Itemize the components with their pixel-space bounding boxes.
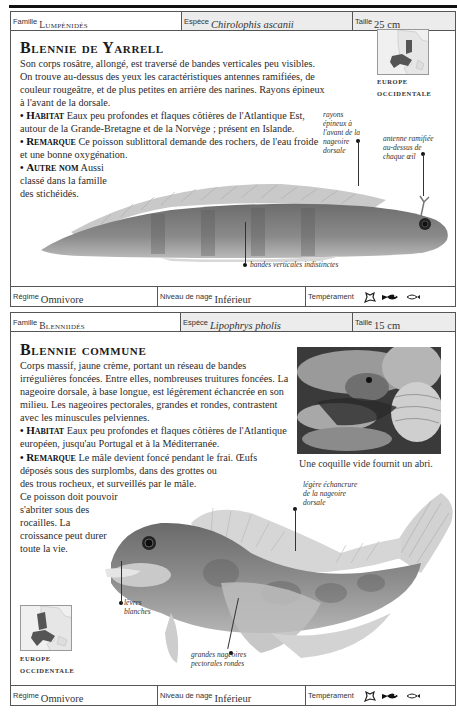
bottom-dwelling-fish-icon	[382, 292, 400, 303]
regime-field: RégimeOmnivore	[11, 686, 158, 705]
taille-field: Taille15 cm	[353, 313, 455, 331]
map-caption: EUROPE OCCIDENTALE	[377, 76, 432, 100]
section-keyword: Remarque	[26, 451, 76, 463]
espece-value: Chirolophis ascanii	[211, 19, 294, 30]
species-title: Blennie commune	[20, 341, 146, 359]
habitat-photo	[297, 347, 441, 454]
niveau-value: Inférieur	[215, 693, 252, 704]
regime-value: Omnivore	[41, 294, 84, 305]
regime-label: Régime	[13, 292, 39, 301]
species-title: Blennie de Yarrell	[20, 39, 164, 57]
taille-field: Taille25 cm	[353, 12, 455, 30]
famille-field: FamilleBlenniidés	[11, 313, 181, 331]
temperament-icons	[364, 691, 420, 702]
top-rule	[9, 5, 457, 8]
espece-field: EspèceChirolophis ascanii	[182, 12, 353, 30]
leader-line	[121, 561, 122, 603]
annotation-rayons-epineux: rayons épineux à l'avant de la nageoire …	[323, 110, 368, 155]
taille-label: Taille	[355, 17, 372, 26]
temperament-field: Tempérament	[306, 686, 455, 705]
famille-label: Famille	[13, 17, 37, 26]
famille-field: FamilleLumpénidés	[11, 12, 182, 30]
temperament-icons	[364, 292, 420, 303]
school-fish-icon	[406, 691, 420, 702]
niveau-label: Niveau de nage	[160, 292, 213, 301]
niveau-label: Niveau de nage	[160, 691, 213, 700]
peaceful-fish-icon	[364, 691, 376, 702]
distribution-map	[20, 605, 72, 651]
peaceful-fish-icon	[364, 292, 376, 303]
taille-value: 15 cm	[374, 320, 400, 331]
espece-value: Lipophrys pholis	[210, 320, 281, 331]
section-habitat: • Habitat Eaux peu profondes et flaques …	[20, 424, 292, 450]
europe-map-icon	[378, 30, 429, 75]
card-footer: RégimeOmnivore Niveau de nageInférieur T…	[11, 286, 455, 306]
europe-map-icon	[21, 606, 72, 651]
card-footer: RégimeOmnivore Niveau de nageInférieur T…	[11, 685, 455, 705]
temperament-label: Tempérament	[308, 292, 354, 301]
leader-line	[423, 154, 424, 196]
niveau-field: Niveau de nageInférieur	[158, 287, 306, 306]
section-keyword: Remarque	[26, 135, 76, 147]
fish-illustration-chirolophis	[41, 162, 453, 262]
regime-label: Régime	[13, 691, 39, 700]
niveau-field: Niveau de nageInférieur	[158, 686, 306, 705]
niveau-value: Inférieur	[215, 294, 252, 305]
map-caption: EUROPE OCCIDENTALE	[20, 653, 75, 677]
distribution-map	[377, 29, 429, 75]
espece-field: EspèceLipophrys pholis	[181, 313, 353, 331]
school-fish-icon	[406, 292, 420, 303]
annotation-bandes-verticales: bandes verticales indistinctes	[250, 260, 370, 269]
leader-line	[245, 222, 246, 264]
famille-value: Lumpénidés	[39, 20, 88, 30]
species-description: Corps massif, jaune crème, portant un ré…	[20, 359, 292, 424]
species-description: Son corps rosâtre, allongé, est traversé…	[20, 57, 325, 109]
temperament-label: Tempérament	[308, 691, 354, 700]
annotation-echancrure-dorsale: légère échancrure de la nageoire dorsale	[303, 480, 363, 507]
annotation-antenne-ramifiee: antenne ramifiée au-dessus de chaque œil	[383, 134, 443, 161]
temperament-field: Tempérament	[306, 287, 455, 306]
annotation-grandes-pectorales: grandes nageoires pectorales rondes	[191, 650, 261, 668]
fish-illustration-lipophrys	[101, 483, 457, 683]
famille-value: Blenniidés	[39, 321, 85, 331]
annotation-levres-blanches: lèvres blanches	[124, 598, 164, 616]
taille-label: Taille	[355, 318, 372, 327]
fish-in-shell-photo	[297, 347, 441, 454]
espece-label: Espèce	[183, 318, 208, 327]
section-remarque: • Remarque Ce poisson sublittoral demand…	[20, 135, 325, 161]
section-keyword: Habitat	[26, 109, 64, 121]
section-habitat: • Habitat Eaux peu profondes et flaques …	[20, 109, 325, 135]
leader-line	[358, 141, 359, 186]
regime-value: Omnivore	[41, 693, 84, 704]
card-header: FamilleBlenniidés EspèceLipophrys pholis…	[11, 313, 455, 332]
espece-label: Espèce	[184, 17, 209, 26]
regime-field: RégimeOmnivore	[11, 287, 158, 306]
species-card-blennie-de-yarrell: FamilleLumpénidés EspèceChirolophis asca…	[10, 11, 456, 307]
section-keyword: Habitat	[26, 424, 64, 436]
bottom-dwelling-fish-icon	[382, 691, 400, 702]
famille-label: Famille	[13, 318, 37, 327]
species-card-blennie-commune: FamilleBlenniidés EspèceLipophrys pholis…	[10, 312, 456, 706]
photo-caption: Une coquille vide fournit un abri.	[299, 458, 433, 469]
species-description-block: Corps massif, jaune crème, portant un ré…	[20, 359, 292, 450]
leader-line	[295, 509, 296, 551]
